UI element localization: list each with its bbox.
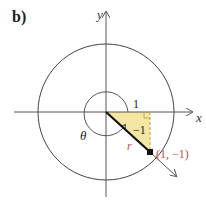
polar-diagram: b) y x 1 −1 r θ (1, −1)	[0, 0, 206, 205]
y-axis-label: y	[95, 7, 103, 22]
point-marker	[147, 149, 153, 155]
part-label: b)	[12, 8, 26, 26]
radius-label: r	[127, 139, 132, 153]
x-axis-label: x	[195, 110, 202, 125]
vertical-leg-label: −1	[133, 123, 146, 137]
point-label: (1, −1)	[156, 147, 189, 161]
angle-label: θ	[80, 128, 87, 143]
horizontal-leg-label: 1	[133, 97, 139, 111]
